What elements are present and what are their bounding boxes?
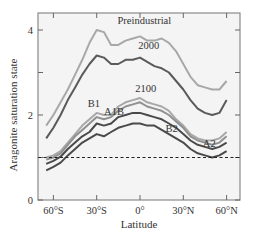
x-tick-label: 30°S (86, 205, 107, 216)
chart-canvas: 60°S30°S0°30°N60°N024 Preindustrial20002… (0, 0, 255, 236)
y-tick-label: 0 (28, 195, 33, 206)
annotation-label: B2 (166, 123, 178, 134)
annotation-label: Preindustrial (117, 15, 171, 26)
aragonite-saturation-chart: 60°S30°S0°30°N60°N024 Preindustrial20002… (0, 0, 255, 236)
annotation-label: 2000 (138, 40, 159, 51)
x-tick-label: 30°N (172, 205, 195, 216)
x-tick-label: 60°S (43, 205, 64, 216)
y-tick-label: 4 (28, 25, 34, 36)
x-axis-title: Latitude (121, 218, 158, 230)
annotation-label: A1B (104, 106, 124, 117)
x-tick-label: 0° (135, 205, 144, 216)
annotation-label: A2 (203, 138, 216, 149)
x-tick-label: 60°N (215, 205, 238, 216)
annotation-label: 2100 (135, 83, 156, 94)
y-axis-title: Aragonite saturation state (7, 58, 19, 171)
annotation-label: B1 (88, 98, 100, 109)
y-tick-label: 2 (28, 110, 33, 121)
